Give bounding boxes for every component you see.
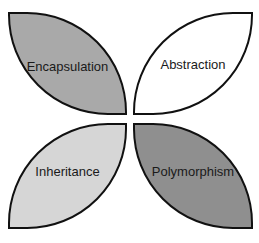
quadrant-inheritance: Inheritance <box>8 123 127 229</box>
quadrant-label: Abstraction <box>160 57 225 72</box>
quadrant-label: Inheritance <box>35 164 99 179</box>
quadrant-polymorphism: Polymorphism <box>133 123 253 229</box>
quadrant-abstraction: Abstraction <box>133 12 253 115</box>
quadrant-label: Encapsulation <box>27 59 109 74</box>
quadrant-label: Polymorphism <box>152 164 234 179</box>
oop-pillars-diagram: Encapsulation Abstraction Inheritance Po… <box>0 0 259 243</box>
quadrant-encapsulation: Encapsulation <box>8 12 127 115</box>
